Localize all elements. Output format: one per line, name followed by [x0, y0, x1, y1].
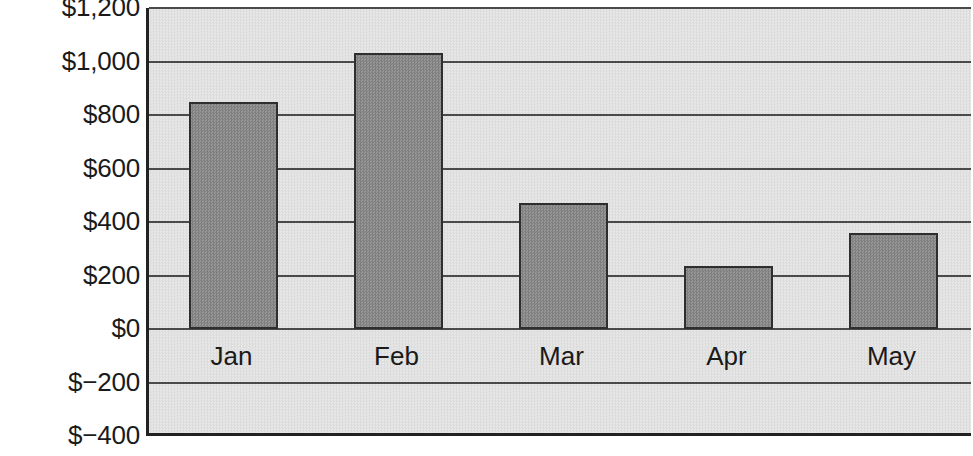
y-tick-label: $−400 — [0, 422, 140, 448]
y-tick-label: $1,000 — [0, 48, 140, 74]
x-tick-label-mar: Mar — [479, 343, 644, 369]
bar-feb[interactable] — [354, 53, 442, 329]
bar-chart-figure: $1,200$1,000$800$600$400$200$0$−200$−400… — [0, 0, 973, 456]
x-tick-label-feb: Feb — [314, 343, 479, 369]
bar-jan[interactable] — [189, 102, 277, 329]
y-tick-label: $0 — [0, 315, 140, 341]
y-tick-label: $600 — [0, 155, 140, 181]
bar-mar[interactable] — [519, 203, 607, 329]
x-tick-label-jan: Jan — [149, 343, 314, 369]
y-tick-label: $1,200 — [0, 0, 140, 20]
bar-apr[interactable] — [684, 266, 772, 329]
y-tick-label: $200 — [0, 262, 140, 288]
y-tick-label: $400 — [0, 208, 140, 234]
y-axis: $1,200$1,000$800$600$400$200$0$−200$−400 — [0, 0, 140, 456]
x-tick-label-may: May — [809, 343, 973, 369]
plot-area: JanFebMarAprMay — [146, 8, 971, 436]
x-tick-label-apr: Apr — [644, 343, 809, 369]
y-tick-label: $800 — [0, 101, 140, 127]
bar-may[interactable] — [849, 233, 937, 329]
y-tick-label: $−200 — [0, 369, 140, 395]
